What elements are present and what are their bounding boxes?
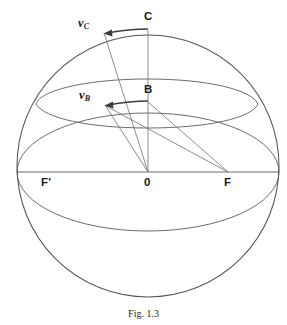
vector-label-vc: vC — [78, 17, 89, 31]
point-label-f: F — [224, 177, 231, 189]
vector-label-vc-subscript: C — [84, 22, 89, 31]
construction-line-b-to-f — [148, 102, 228, 172]
vector-label-vb-subscript: B — [85, 94, 90, 103]
point-label-origin: 0 — [144, 177, 151, 189]
construction-line-vb-tip-to-f — [106, 106, 228, 172]
figure-container: C B 0 F F' vC vB Fig. 1.3 — [0, 0, 287, 325]
velocity-vector-b-shaft — [108, 101, 148, 105]
figure-caption: Fig. 1.3 — [0, 308, 287, 319]
point-label-b: B — [144, 84, 153, 96]
point-label-f-prime: F' — [41, 177, 51, 189]
vector-label-vb: vB — [79, 89, 90, 103]
velocity-vector-c-shaft — [107, 29, 148, 33]
figure-drawing — [0, 0, 287, 325]
construction-line-vb-tip-to-origin — [105, 105, 148, 172]
point-label-c: C — [144, 11, 153, 23]
